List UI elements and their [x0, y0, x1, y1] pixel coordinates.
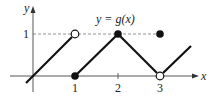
- x-axis-arrow-icon: [192, 74, 199, 79]
- tick-label-x1: 1: [72, 81, 78, 95]
- segment-4: [163, 46, 191, 73]
- x-axis-label: x: [200, 69, 207, 83]
- segment-3: [118, 34, 157, 73]
- open-point-1-1: [71, 30, 79, 38]
- closed-point-1-0: [71, 72, 79, 80]
- tick-label-x3: 3: [157, 81, 163, 95]
- tick-label-x2: 2: [115, 81, 121, 95]
- y-axis-arrow-icon: [31, 6, 36, 13]
- segment-2: [75, 34, 118, 76]
- graph: y x 1 1 2 3 y = g(x): [0, 0, 211, 97]
- function-label: y = g(x): [95, 12, 135, 26]
- tick-label-y1: 1: [23, 27, 29, 41]
- closed-point-2-1: [114, 30, 122, 38]
- closed-point-3-1: [156, 30, 164, 38]
- open-point-3-0: [156, 72, 164, 80]
- y-axis-label: y: [23, 1, 30, 15]
